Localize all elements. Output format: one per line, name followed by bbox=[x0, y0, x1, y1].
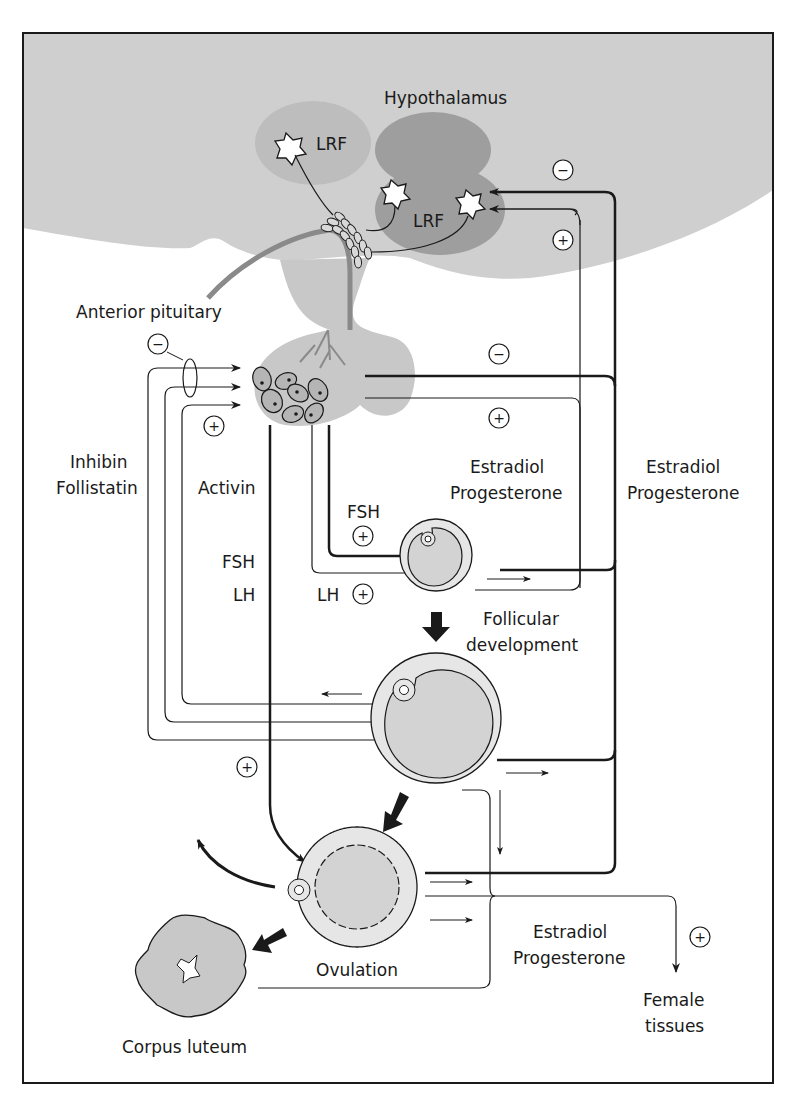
svg-text:+: + bbox=[208, 418, 220, 434]
development-label: development bbox=[466, 635, 578, 655]
tissues-label: tissues bbox=[645, 1016, 704, 1036]
ovulation-label: Ovulation bbox=[316, 960, 398, 980]
ovulating-follicle bbox=[288, 827, 417, 947]
svg-text:+: + bbox=[241, 759, 253, 775]
estradiol-bottom-label: Estradiol bbox=[533, 922, 607, 942]
primary-follicle bbox=[400, 519, 472, 591]
fsh-lh-surge-line bbox=[270, 425, 305, 862]
svg-text:+: + bbox=[557, 232, 569, 248]
lh-left-label: LH bbox=[233, 585, 255, 605]
fsh-left-label: FSH bbox=[222, 552, 255, 572]
lh-mid-label: LH bbox=[317, 585, 339, 605]
anterior-pituitary-label: Anterior pituitary bbox=[76, 302, 222, 322]
progesterone-right-label: Progesterone bbox=[627, 483, 739, 503]
estradiol-mid-label: Estradiol bbox=[470, 457, 544, 477]
fsh-mid-label: FSH bbox=[347, 502, 380, 522]
inhibin-follistatin-selector bbox=[183, 359, 197, 397]
inhibin-label: Inhibin bbox=[70, 452, 128, 472]
oocyte-release-arrow bbox=[198, 840, 275, 887]
svg-text:+: + bbox=[493, 410, 505, 426]
ovulation-arrow bbox=[383, 792, 409, 832]
lh-line bbox=[312, 425, 405, 573]
corpus-luteum bbox=[135, 915, 245, 1017]
svg-text:−: − bbox=[152, 336, 164, 352]
follicular-development-arrow bbox=[422, 612, 450, 642]
progesterone-mid-label: Progesterone bbox=[450, 483, 562, 503]
lrf-right-label: LRF bbox=[413, 211, 444, 231]
svg-text:−: − bbox=[557, 162, 569, 178]
progesterone-bottom-label: Progesterone bbox=[513, 948, 625, 968]
estradiol-right-label: Estradiol bbox=[646, 457, 720, 477]
svg-text:+: + bbox=[694, 929, 706, 945]
svg-text:+: + bbox=[357, 586, 369, 602]
corpus-luteum-arrow bbox=[252, 928, 287, 953]
svg-text:−: − bbox=[493, 346, 505, 362]
follistatin-label: Follistatin bbox=[56, 478, 138, 498]
activin-label: Activin bbox=[198, 478, 256, 498]
lrf-nucleus-left bbox=[255, 101, 371, 185]
mature-follicle bbox=[371, 653, 501, 783]
follicular-label: Follicular bbox=[483, 609, 559, 629]
diagram-canvas: − + − + − + + + + + Hypothalamus LRF LRF… bbox=[0, 0, 797, 1109]
svg-text:+: + bbox=[357, 528, 369, 544]
hypothalamus-label: Hypothalamus bbox=[384, 88, 507, 108]
corpus-luteum-label: Corpus luteum bbox=[122, 1037, 247, 1057]
female-label: Female bbox=[643, 990, 704, 1010]
lrf-left-label: LRF bbox=[316, 134, 347, 154]
activin-line bbox=[182, 405, 375, 704]
